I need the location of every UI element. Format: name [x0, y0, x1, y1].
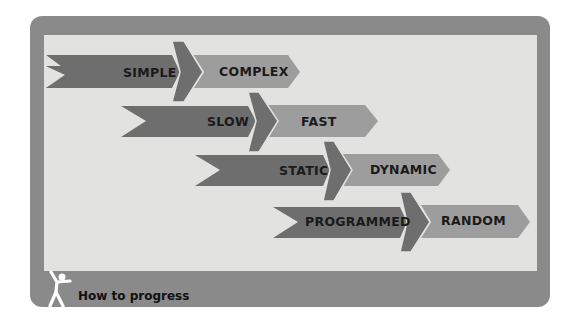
footer-label: How to progress [78, 289, 189, 303]
arrow-row-2 [121, 92, 378, 152]
label-fast: FAST [301, 114, 337, 129]
person-jumping-icon [48, 270, 74, 308]
label-random: RANDOM [441, 213, 506, 228]
label-simple: SIMPLE [123, 65, 177, 80]
label-dynamic: DYNAMIC [370, 162, 437, 177]
label-programmed: PROGRAMMED [305, 214, 411, 229]
footer: How to progress [48, 272, 189, 306]
label-static: STATIC [279, 163, 328, 178]
label-slow: SLOW [207, 114, 249, 129]
label-complex: COMPLEX [219, 64, 289, 79]
